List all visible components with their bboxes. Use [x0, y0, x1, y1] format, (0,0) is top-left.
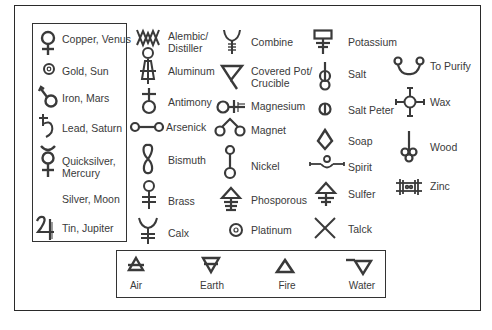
symbol-label: Potassium	[348, 36, 397, 48]
planet-label: Copper, Venus	[62, 33, 131, 45]
mars-icon	[39, 85, 59, 109]
crucible-icon	[220, 64, 244, 90]
moon-icon	[41, 191, 57, 207]
alembic-icon	[136, 29, 160, 47]
symbol-label: Alembic/ Distiller	[168, 30, 208, 54]
earth-icon	[201, 256, 221, 274]
symbol-label: Antimony	[168, 96, 212, 108]
symbol-label: Arsenick	[166, 121, 206, 133]
symbol-label: Magnesium	[251, 100, 305, 112]
arsenic-icon	[130, 121, 164, 133]
symbol-label: Sulfer	[348, 188, 375, 200]
symbol-label: Salt	[348, 68, 366, 80]
symbol-label: Salt Peter	[348, 104, 394, 116]
symbol-label: Soap	[348, 135, 373, 147]
antimony-icon	[139, 87, 159, 115]
element-label: Fire	[262, 280, 312, 291]
talc-icon	[313, 217, 337, 239]
planet-label: Quicksilver, Mercury	[62, 155, 116, 179]
symbol-label: Platinum	[251, 224, 292, 236]
planet-label: Tin, Jupiter	[62, 222, 114, 234]
symbol-label: Spirit	[348, 161, 372, 173]
mercury-icon	[38, 145, 58, 179]
salt-icon	[318, 61, 332, 91]
symbol-label: Talck	[348, 223, 372, 235]
symbol-label: Wax	[430, 96, 451, 108]
soap-icon	[316, 129, 334, 151]
nickel-icon	[222, 145, 238, 179]
symbol-label: Covered Pot/ Crucible	[251, 65, 312, 89]
brass-icon	[139, 180, 159, 210]
symbol-label: Brass	[168, 195, 195, 207]
element-label: Water	[337, 280, 387, 291]
bismuth-icon	[140, 143, 156, 175]
symbol-label: Bismuth	[168, 154, 206, 166]
aluminum-icon	[138, 47, 158, 85]
symbol-label: Nickel	[251, 160, 280, 172]
symbol-label: Phosporous	[251, 194, 307, 206]
element-label: Air	[111, 280, 161, 291]
combine-icon	[222, 29, 242, 55]
planet-label: Iron, Mars	[62, 92, 109, 104]
saturn-icon	[38, 113, 58, 139]
planet-label: Gold, Sun	[62, 65, 109, 77]
wax-icon	[395, 87, 425, 117]
calx-icon	[137, 217, 159, 245]
venus-icon	[38, 30, 58, 56]
sun-icon	[43, 63, 55, 75]
air-icon	[127, 256, 145, 272]
planet-label: Lead, Saturn	[62, 122, 122, 134]
phosphorus-icon	[220, 186, 242, 212]
magnesium-icon	[216, 98, 246, 114]
symbol-label: Combine	[251, 36, 293, 48]
jupiter-icon	[35, 215, 59, 241]
symbol-label: Wood	[430, 141, 457, 153]
zinc-icon	[395, 178, 423, 196]
wood-icon	[400, 130, 418, 162]
symbol-label: Calx	[168, 227, 189, 239]
fire-icon	[275, 258, 295, 274]
symbol-label: Magnet	[251, 124, 286, 136]
symbol-label: To Purify	[430, 60, 471, 72]
element-label: Earth	[187, 280, 237, 291]
saltpeter-icon	[318, 102, 332, 116]
sulfur-icon	[315, 181, 337, 207]
symbol-label: Aluminum	[168, 65, 215, 77]
potassium-icon	[313, 29, 333, 55]
planet-label: Silver, Moon	[62, 193, 120, 205]
symbol-label: Zinc	[430, 180, 450, 192]
spirit-icon	[309, 154, 345, 170]
magnet-icon	[214, 117, 246, 137]
purify-icon	[393, 56, 425, 76]
water-icon	[345, 258, 373, 276]
platinum-icon	[216, 222, 244, 238]
